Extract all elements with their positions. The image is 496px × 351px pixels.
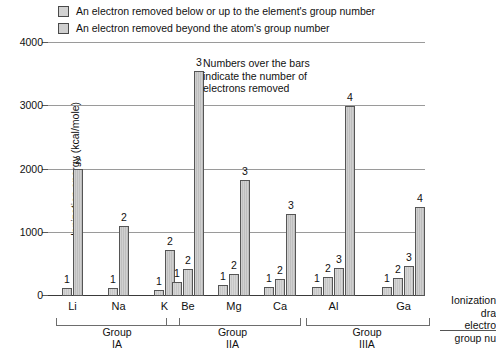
group-roman: IIA [166,338,299,350]
bar-al-2 [323,277,333,296]
ytick-1000: 1000 [20,227,43,237]
bar-count-ga-4: 4 [411,193,429,204]
element-label-ga: Ga [387,300,421,312]
gridline-1000 [48,232,425,233]
plot-area: Ionization energy (kcal/mole) 4000 3000 … [48,42,425,296]
legend-item-within: An electron removed below or up to the e… [58,4,375,19]
bar-li-2 [73,169,83,296]
legend-swatch-beyond [58,23,69,34]
element-label-be: Be [171,300,205,312]
gridline-3000 [48,105,425,106]
ytick-4000: 4000 [20,37,43,47]
group-bracket-iia [166,318,301,326]
bar-ca-3 [286,214,296,296]
right-caption-line-2: dra [432,307,496,320]
group-label-iiia: GroupIIIA [306,326,428,350]
bar-k-1 [154,290,164,296]
annotation-line-2: indicate the number of [203,70,353,83]
legend-item-beyond: An electron removed beyond the atom's gr… [58,21,375,36]
group-bracket-iiia [306,318,430,326]
bar-be-3 [194,71,204,296]
bar-be-2 [183,269,193,296]
bar-mg-2 [229,274,239,296]
bar-ga-4 [415,207,425,296]
ytick-0: 0 [37,290,43,300]
gridline-4000 [48,42,425,43]
bar-li-1 [62,288,72,296]
bar-ga-2 [393,278,403,296]
ytick-3000: 3000 [20,100,43,110]
legend-label-beyond: An electron removed beyond the atom's gr… [76,23,330,34]
bar-mg-1 [218,285,228,296]
group-label-iia: GroupIIA [166,326,299,350]
bar-ga-1 [382,287,392,296]
ytick-2000: 2000 [20,164,43,174]
caption-divider [440,330,496,331]
group-word: Group [166,326,299,338]
group-bracket-ia [56,318,180,326]
element-label-li: Li [56,300,90,312]
bar-na-2 [119,226,129,296]
bar-ca-2 [275,279,285,296]
bar-na-1 [108,288,118,296]
bar-ca-1 [264,287,274,296]
chart-annotation: Numbers over the bars indicate the numbe… [203,57,353,95]
right-caption-line-4: group nu [432,332,496,345]
bar-be-1 [172,282,182,296]
chart-legend: An electron removed below or up to the e… [58,4,375,38]
legend-swatch-within [58,6,69,17]
legend-label-within: An electron removed below or up to the e… [76,6,375,17]
annotation-line-1: Numbers over the bars [203,57,353,70]
ionization-energy-figure: An electron removed below or up to the e… [0,0,496,351]
element-label-ca: Ca [263,300,297,312]
group-roman: IA [56,338,178,350]
right-caption-line-1: Ionization [432,294,496,307]
right-caption-fragment: Ionization dra electro group nu [432,294,496,344]
element-label-mg: Mg [217,300,251,312]
group-word: Group [56,326,178,338]
group-roman: IIIA [306,338,428,350]
bar-count-li-2: 2 [69,155,87,166]
bar-count-mg-3: 3 [236,166,254,177]
bar-count-na-2: 2 [115,212,133,223]
element-label-al: Al [317,300,351,312]
bar-ga-3 [404,266,414,296]
bar-count-k-2: 2 [161,236,179,247]
group-label-ia: GroupIA [56,326,178,350]
annotation-line-3: electrons removed [203,82,353,95]
bar-al-1 [312,287,322,296]
group-word: Group [306,326,428,338]
bar-mg-3 [240,180,250,296]
bar-al-4 [345,106,355,296]
bar-count-ca-3: 3 [282,200,300,211]
bar-al-3 [334,268,344,296]
element-label-na: Na [102,300,136,312]
